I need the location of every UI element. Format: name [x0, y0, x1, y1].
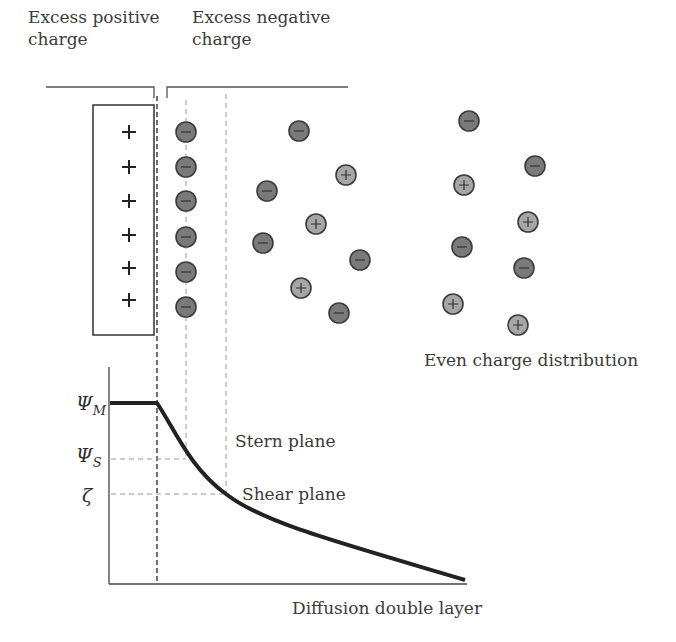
positive-ion-icon	[306, 214, 326, 234]
negative-ion-icon	[452, 237, 472, 257]
positive-ion-icon	[443, 294, 463, 314]
negative-ion-icon	[253, 233, 273, 253]
negative-ion-icon	[176, 122, 196, 142]
negative-ion-icon	[514, 258, 534, 278]
negative-bracket	[167, 87, 348, 98]
positive-ion-icon	[518, 212, 538, 232]
negative-ion-icon	[525, 156, 545, 176]
negative-ion-icon	[176, 157, 196, 177]
negative-ion-icon	[176, 262, 196, 282]
negative-ion-icon	[176, 191, 196, 211]
positive-ion-icon	[291, 278, 311, 298]
negative-ion-icon	[257, 181, 277, 201]
negative-ion-icon	[329, 303, 349, 323]
double-layer-diagram	[0, 0, 676, 642]
negative-ion-icon	[176, 297, 196, 317]
positive-ion-icon	[336, 165, 356, 185]
ions-group	[176, 111, 545, 335]
positive-bracket	[46, 87, 154, 98]
positive-ion-icon	[508, 315, 528, 335]
negative-ion-icon	[289, 121, 309, 141]
positive-ion-icon	[454, 175, 474, 195]
potential-curve	[110, 403, 465, 580]
surface-charges	[122, 125, 136, 307]
negative-ion-icon	[176, 227, 196, 247]
negative-ion-icon	[350, 250, 370, 270]
negative-ion-icon	[459, 111, 479, 131]
